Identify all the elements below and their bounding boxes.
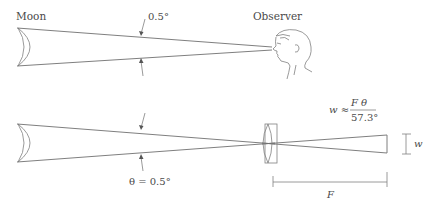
ray-to-image-top [262,135,387,144]
focal-length-label: F [326,189,335,200]
top-panel: Moon 0.5° Observer [16,10,312,79]
angle-arrow-bottom [139,58,144,76]
angle-arrow-top-bottom-panel [139,113,145,130]
image-size-label: w [414,138,423,149]
angle-arrow-top [139,19,145,36]
angle-label-top: 0.5° [148,11,169,22]
observer-label: Observer [253,10,303,22]
formula-denominator: 57.3° [351,112,378,123]
ray-to-image-bottom [262,143,387,153]
observer-head-icon [273,30,312,79]
upper-ray [17,28,272,47]
image-size-bracket [402,134,411,154]
moon-crescent-icon-bottom [18,124,30,162]
angle-arrow-bottom-bottom-panel [139,154,144,171]
lower-ray-incoming [17,143,275,162]
moon-angular-size-diagram: Moon 0.5° Observer [0,0,431,207]
theta-label: θ = 0.5° [129,176,171,187]
moon-label: Moon [16,10,46,22]
formula-numerator: F θ [350,97,367,108]
formula: w ≈ F θ 57.3° [329,97,378,123]
bottom-panel: θ = 0.5° w ≈ F θ 57.3° w F [17,97,423,200]
moon-crescent-icon [18,28,30,66]
formula-lhs: w ≈ [329,104,349,115]
focal-length-dimension [273,172,387,187]
upper-ray-incoming [17,124,275,144]
lower-ray [17,50,272,66]
